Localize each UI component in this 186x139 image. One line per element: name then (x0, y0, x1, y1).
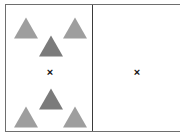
fixation-cross-left: × (47, 67, 53, 78)
figure-frame: × × (5, 4, 180, 132)
triangle-light-top-right (63, 18, 87, 39)
figure-canvas: × × (0, 0, 186, 139)
triangle-dark-bottom-center (39, 89, 63, 110)
triangle-light-top-left (14, 18, 38, 39)
left-panel: × (6, 5, 93, 131)
triangle-light-bottom-left (14, 107, 38, 128)
right-panel: × (93, 5, 181, 131)
triangle-dark-top-center (39, 36, 63, 57)
triangle-light-bottom-right (63, 107, 87, 128)
fixation-cross-right: × (134, 67, 140, 78)
